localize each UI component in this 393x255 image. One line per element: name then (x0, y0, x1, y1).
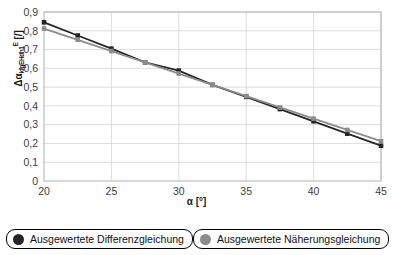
data-point-marker (210, 83, 215, 88)
data-point-marker (42, 20, 47, 25)
chart-legend: Ausgewertete Differenzgleichung Ausgewer… (0, 224, 393, 254)
y-axis-label-subscript: kfgEHdh1 (18, 46, 25, 73)
plot-container: ΔαkfgEHdh1E [/] 00,10,20,30,40,50,60,70,… (0, 0, 393, 210)
legend-item-differenzgleichung[interactable]: Ausgewertete Differenzgleichung (6, 229, 193, 249)
y-axis-tick-label: 0,2 (23, 137, 38, 149)
data-point-marker (244, 94, 249, 99)
y-axis-tick-label: 0,3 (23, 118, 38, 130)
legend-item-naeherungsgleichung[interactable]: Ausgewertete Näherungsgleichung (193, 229, 389, 249)
circle-marker-icon (200, 234, 211, 245)
y-axis-label-symbol: Δα (13, 74, 24, 87)
y-axis-tick-label: 0,4 (23, 100, 38, 112)
chart-figure: ΔαkfgEHdh1E [/] 00,10,20,30,40,50,60,70,… (0, 0, 393, 255)
legend-item-label: Ausgewertete Näherungsgleichung (217, 233, 380, 245)
plot-svg: 00,10,20,30,40,50,60,70,80,9202530354045 (0, 0, 393, 200)
y-axis-tick-label: 0,8 (23, 25, 38, 37)
y-axis-tick-label: 0,5 (23, 81, 38, 93)
y-axis-tick-label: 0,6 (23, 62, 38, 74)
data-point-marker (345, 128, 350, 133)
data-point-marker (75, 37, 80, 42)
y-axis-label-unit: [/] (13, 30, 24, 39)
y-axis-label-superscript: E (12, 42, 19, 46)
data-point-marker (75, 33, 80, 38)
data-point-marker (143, 60, 148, 65)
data-point-marker (311, 116, 316, 121)
data-point-marker (109, 49, 114, 54)
legend-item-label: Ausgewertete Differenzgleichung (30, 233, 184, 245)
y-axis-label: ΔαkfgEHdh1E [/] (12, 0, 25, 119)
y-axis-tick-label: 0,1 (23, 156, 38, 168)
data-point-marker (177, 71, 182, 76)
data-point-marker (278, 105, 283, 110)
data-point-marker (42, 26, 47, 31)
data-point-marker (379, 139, 384, 144)
y-axis-tick-label: 0,9 (23, 6, 38, 18)
y-axis-tick-label: 0,7 (23, 43, 38, 55)
data-point-marker (379, 143, 384, 148)
circle-marker-icon (13, 234, 24, 245)
x-axis-label: α [°] (0, 196, 393, 207)
